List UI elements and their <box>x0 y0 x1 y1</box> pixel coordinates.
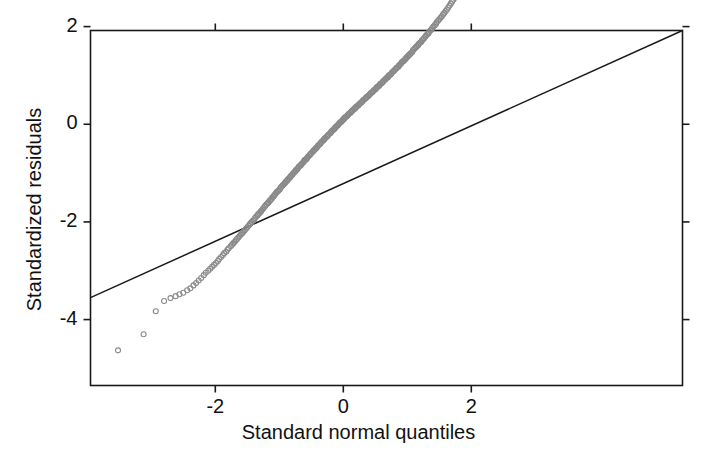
plot-canvas <box>0 0 717 459</box>
x-tick-label: -2 <box>195 395 235 418</box>
y-axis-label: Standardized residuals <box>23 10 46 410</box>
y-axis-label-holder: Standardized residuals <box>8 0 48 459</box>
x-tick-label: 2 <box>451 395 491 418</box>
data-point <box>162 299 167 304</box>
axes-frame <box>91 31 683 386</box>
qq-plot-figure: -202 20-2-4 Standard normal quantiles St… <box>0 0 717 459</box>
x-tick-label: 0 <box>323 395 363 418</box>
data-points <box>116 0 572 353</box>
data-point <box>141 332 146 337</box>
plot-frame <box>91 31 683 386</box>
data-point <box>168 296 173 301</box>
data-point <box>116 348 121 353</box>
x-axis-label: Standard normal quantiles <box>0 421 717 444</box>
data-point <box>153 309 158 314</box>
reference-line <box>91 31 683 298</box>
reference-line-path <box>91 31 683 298</box>
